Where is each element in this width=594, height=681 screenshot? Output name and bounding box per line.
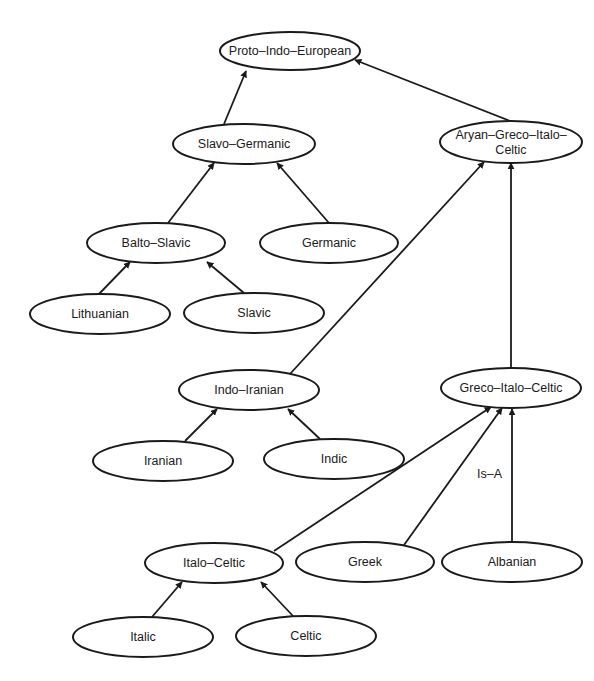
node-lithuanian: Lithuanian bbox=[30, 294, 170, 334]
arrow-icon bbox=[274, 407, 491, 551]
node-pie: Proto–Indo–European bbox=[220, 32, 360, 70]
node-label: Greek bbox=[348, 555, 383, 569]
node-label: Balto–Slavic bbox=[122, 236, 191, 250]
node-label: Germanic bbox=[302, 236, 356, 250]
node-albanian: Albanian bbox=[442, 542, 582, 582]
node-slavic: Slavic bbox=[184, 293, 324, 333]
edge-italo_celtic-to-greco_italo_celtic bbox=[274, 407, 491, 551]
arrow-icon bbox=[290, 162, 484, 374]
edge-label: Is–A bbox=[477, 467, 503, 481]
edge-lithuanian-to-balto_slavic bbox=[99, 262, 130, 294]
node-iranian: Iranian bbox=[93, 441, 233, 481]
node-indic: Indic bbox=[264, 439, 404, 479]
node-italo-celtic: Italo–Celtic bbox=[145, 543, 283, 583]
node-balto-slavic: Balto–Slavic bbox=[87, 223, 225, 263]
arrow-icon bbox=[152, 582, 182, 617]
node-label: Proto–Indo–European bbox=[229, 44, 351, 58]
arrow-icon bbox=[224, 71, 246, 124]
edge-iranian-to-indo_iranian bbox=[185, 409, 217, 441]
edge-slavo_germanic-to-pie bbox=[224, 71, 246, 124]
edge-indic-to-indo_iranian bbox=[288, 409, 320, 439]
edge-germanic-to-slavo_germanic bbox=[277, 163, 329, 223]
arrow-icon bbox=[207, 262, 244, 293]
node-italic: Italic bbox=[73, 617, 213, 657]
node-label: Slavo–Germanic bbox=[198, 137, 290, 151]
arrow-icon bbox=[185, 409, 217, 441]
arrow-icon bbox=[288, 409, 320, 439]
node-label: Italic bbox=[130, 630, 156, 644]
edge-celtic-to-italo_celtic bbox=[261, 582, 293, 616]
node-label: Aryan–Greco–Italo– bbox=[455, 128, 566, 142]
arrow-icon bbox=[261, 582, 293, 616]
edge-slavic-to-balto_slavic bbox=[207, 262, 244, 293]
node-label: Celtic bbox=[290, 629, 321, 643]
arrow-icon bbox=[99, 262, 130, 294]
nodes-layer: Proto–Indo–EuropeanSlavo–GermanicAryan–G… bbox=[30, 32, 582, 657]
arrow-icon bbox=[277, 163, 329, 223]
node-label: Iranian bbox=[144, 454, 182, 468]
arrow-icon bbox=[168, 163, 214, 223]
node-aryan-greco-italo-celtic: Aryan–Greco–Italo–Celtic bbox=[440, 121, 582, 163]
edge-balto_slavic-to-slavo_germanic bbox=[168, 163, 214, 223]
node-label: Albanian bbox=[488, 555, 537, 569]
node-germanic: Germanic bbox=[260, 223, 398, 263]
node-label: Celtic bbox=[495, 143, 526, 157]
edge-aryan_greco_italo_celtic-to-pie bbox=[355, 60, 510, 121]
node-label: Greco–Italo–Celtic bbox=[460, 381, 563, 395]
node-indo-iranian: Indo–Iranian bbox=[179, 370, 319, 410]
edge-italic-to-italo_celtic bbox=[152, 582, 182, 617]
arrow-icon bbox=[355, 60, 510, 121]
node-label: Lithuanian bbox=[71, 307, 129, 321]
node-celtic: Celtic bbox=[236, 616, 376, 656]
node-greco-italo-celtic: Greco–Italo–Celtic bbox=[441, 368, 581, 408]
node-label: Indic bbox=[321, 452, 347, 466]
edge-albanian-to-greco_italo_celtic: Is–A bbox=[477, 409, 512, 542]
node-slavo-germanic: Slavo–Germanic bbox=[173, 124, 315, 164]
node-greek: Greek bbox=[296, 542, 434, 582]
edge-indo_iranian-to-aryan_greco_italo_celtic bbox=[290, 162, 484, 374]
node-label: Indo–Iranian bbox=[214, 383, 284, 397]
node-label: Slavic bbox=[237, 306, 270, 320]
node-label: Italo–Celtic bbox=[183, 556, 245, 570]
language-family-diagram: Is–A Proto–Indo–EuropeanSlavo–GermanicAr… bbox=[0, 0, 594, 681]
